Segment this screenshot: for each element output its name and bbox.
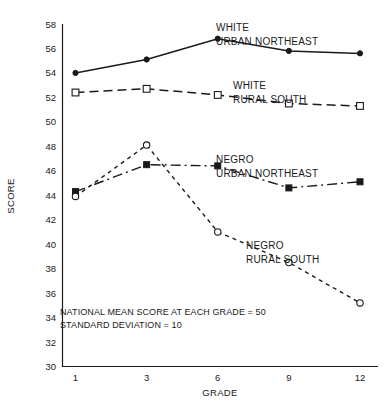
y-tick-52: 52 bbox=[45, 92, 56, 103]
series-label-white-rural-south-line1: WHITE bbox=[233, 80, 266, 91]
series-label-white-rural-south-line2: RURAL SOUTH bbox=[233, 94, 307, 105]
series-labels: WHITE URBAN NORTHEAST WHITE RURAL SOUTH … bbox=[216, 22, 320, 265]
data-point bbox=[73, 70, 78, 75]
data-point bbox=[72, 89, 79, 96]
y-tick-54: 54 bbox=[45, 67, 56, 78]
y-tick-46: 46 bbox=[45, 165, 56, 176]
data-point bbox=[286, 185, 292, 191]
data-point bbox=[144, 162, 150, 168]
chart-annotations: NATIONAL MEAN SCORE AT EACH GRADE = 50 S… bbox=[60, 307, 266, 330]
series-white-rural-south bbox=[72, 85, 363, 109]
x-axis-title: GRADE bbox=[202, 387, 237, 398]
line-chart: 303234363840424446485052545658 136912 SC… bbox=[0, 0, 392, 418]
series-label-white-urban-northeast-line2: URBAN NORTHEAST bbox=[216, 36, 318, 47]
series-label-negro-urban-northeast-line1: NEGRO bbox=[216, 154, 254, 165]
series-label-white-urban-northeast-line1: WHITE bbox=[216, 22, 249, 33]
data-point bbox=[214, 92, 221, 99]
x-tick-labels: 136912 bbox=[73, 372, 365, 383]
series-label-negro-rural-south-line2: RURAL SOUTH bbox=[246, 254, 320, 265]
y-tick-44: 44 bbox=[45, 190, 56, 201]
y-axis-title: SCORE bbox=[5, 178, 16, 213]
y-tick-32: 32 bbox=[45, 337, 56, 348]
y-tick-36: 36 bbox=[45, 288, 56, 299]
x-tick-3: 3 bbox=[144, 372, 149, 383]
x-tick-9: 9 bbox=[286, 372, 291, 383]
data-point bbox=[143, 85, 150, 92]
series-label-negro-urban-northeast-line2: URBAN NORTHEAST bbox=[216, 168, 318, 179]
y-tick-42: 42 bbox=[45, 214, 56, 225]
y-tick-30: 30 bbox=[45, 361, 56, 372]
data-point bbox=[143, 142, 149, 148]
y-tick-58: 58 bbox=[45, 19, 56, 30]
chart-container: 303234363840424446485052545658 136912 SC… bbox=[0, 0, 392, 418]
y-tick-48: 48 bbox=[45, 141, 56, 152]
series-label-negro-rural-south-line1: NEGRO bbox=[246, 240, 284, 251]
y-tick-56: 56 bbox=[45, 43, 56, 54]
data-point bbox=[357, 51, 362, 56]
y-tick-34: 34 bbox=[45, 312, 56, 323]
x-tick-6: 6 bbox=[215, 372, 220, 383]
annotation-standard-deviation: STANDARD DEVIATION = 10 bbox=[60, 320, 182, 330]
data-point bbox=[72, 193, 78, 199]
data-point bbox=[215, 229, 221, 235]
annotation-national-mean: NATIONAL MEAN SCORE AT EACH GRADE = 50 bbox=[60, 307, 266, 317]
y-tick-38: 38 bbox=[45, 263, 56, 274]
y-tick-40: 40 bbox=[45, 239, 56, 250]
data-point bbox=[286, 48, 291, 53]
x-tick-1: 1 bbox=[73, 372, 78, 383]
y-tick-labels: 303234363840424446485052545658 bbox=[45, 19, 56, 373]
x-tick-12: 12 bbox=[355, 372, 366, 383]
y-tick-50: 50 bbox=[45, 116, 56, 127]
data-point bbox=[357, 103, 364, 110]
data-point bbox=[357, 300, 363, 306]
data-point bbox=[144, 57, 149, 62]
data-point bbox=[357, 179, 363, 185]
